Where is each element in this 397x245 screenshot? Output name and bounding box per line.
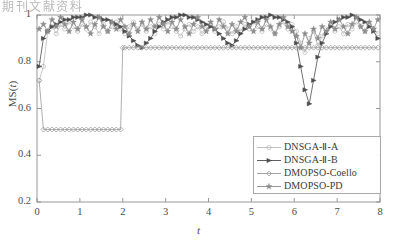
x-tick-label: 1 [69,206,91,217]
y-tick-label: 0.2 [1,195,31,206]
series-dmopso-pd [36,14,381,50]
x-tick-label: 3 [155,206,177,217]
legend-label: DMOPSO-PD [284,180,343,191]
x-tick-label: 0 [26,206,48,217]
y-axis-label: MS(t) [6,64,18,124]
series-dnsga-a [37,20,380,83]
y-tick-label: 1 [1,8,31,19]
x-tick-label: 8 [369,206,391,217]
x-tick-label: 6 [283,206,305,217]
legend-item-dmopso-pd[interactable]: DMOPSO-PD [254,179,380,192]
legend-marker-circle-icon [254,140,284,153]
legend-label: DNSGA-Ⅱ-B [284,154,338,165]
legend-item-dmopso-coello[interactable]: DMOPSO-Coello [254,166,380,179]
chart-legend: DNSGA-Ⅱ-A DNSGA-Ⅱ-B DMOPSO-Coello DMOPSO… [253,136,381,194]
legend-label: DNSGA-Ⅱ-A [284,141,338,152]
x-tick-label: 7 [326,206,348,217]
legend-marker-diamond-icon [254,166,284,179]
y-tick-label: 0.4 [1,148,31,159]
figure-ms-vs-t: 期刊文献资料 MS(t) t 0.20.40.60.81 012345678 D… [0,0,397,245]
x-tick-label: 2 [112,206,134,217]
y-tick-label: 0.8 [1,55,31,66]
x-tick-label: 4 [198,206,220,217]
y-tick-label: 0.6 [1,102,31,113]
x-tick-label: 5 [240,206,262,217]
legend-item-dnsga-ii-b[interactable]: DNSGA-Ⅱ-B [254,153,380,166]
legend-item-dnsga-ii-a[interactable]: DNSGA-Ⅱ-A [254,140,380,153]
legend-marker-triangle-right-icon [254,153,284,166]
x-axis-label: t [0,224,397,236]
legend-marker-star-icon [254,179,284,192]
series-dmopso-coello [37,45,381,132]
legend-label: DMOPSO-Coello [284,167,357,178]
